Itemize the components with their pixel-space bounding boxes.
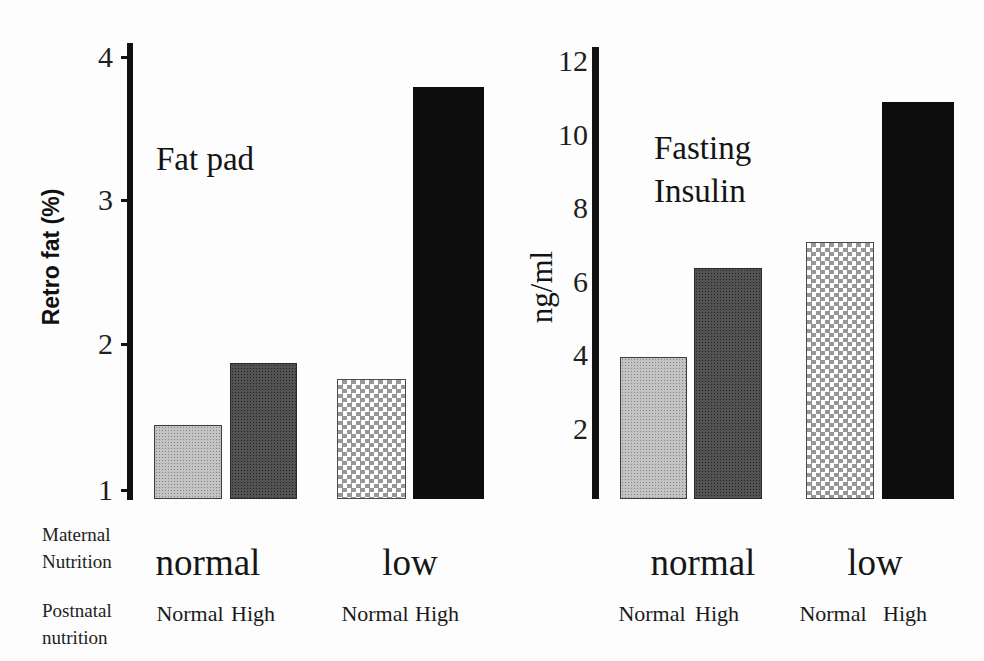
y-tick-label: 10 <box>528 119 588 151</box>
maternal-nutrition-row-label: Maternal Nutrition <box>42 521 134 575</box>
chart-fasting-insulin: 12 10 8 6 4 2 ng/ml Fasting Insulin norm… <box>0 0 984 661</box>
chart-title: Fasting Insulin <box>654 127 751 213</box>
y-tick-label: 12 <box>528 45 588 77</box>
postnatal-nutrition-row-label: Postnatal nutrition <box>42 597 134 651</box>
bar-maternal-low-postnatal-normal <box>806 242 874 499</box>
dual-bar-chart-figure: 4 3 2 1 Retro fat (%) Fat pad normal low… <box>0 0 984 661</box>
y-tick-label: 2 <box>528 413 588 445</box>
bar-maternal-low-postnatal-high <box>882 102 954 499</box>
bar-maternal-normal-postnatal-normal <box>620 357 687 499</box>
group-label-low: low <box>847 543 903 583</box>
bar-label-high: High <box>883 602 927 626</box>
y-tick-label: 8 <box>528 192 588 224</box>
bar-label-high: High <box>695 602 739 626</box>
y-axis-label: ng/ml <box>524 251 560 323</box>
bar-label-normal: Normal <box>618 602 685 626</box>
bar-label-normal: Normal <box>799 602 866 626</box>
y-axis <box>592 47 599 499</box>
y-tick-label: 4 <box>528 339 588 371</box>
group-label-normal: normal <box>651 543 756 583</box>
bar-maternal-normal-postnatal-high <box>694 268 762 499</box>
